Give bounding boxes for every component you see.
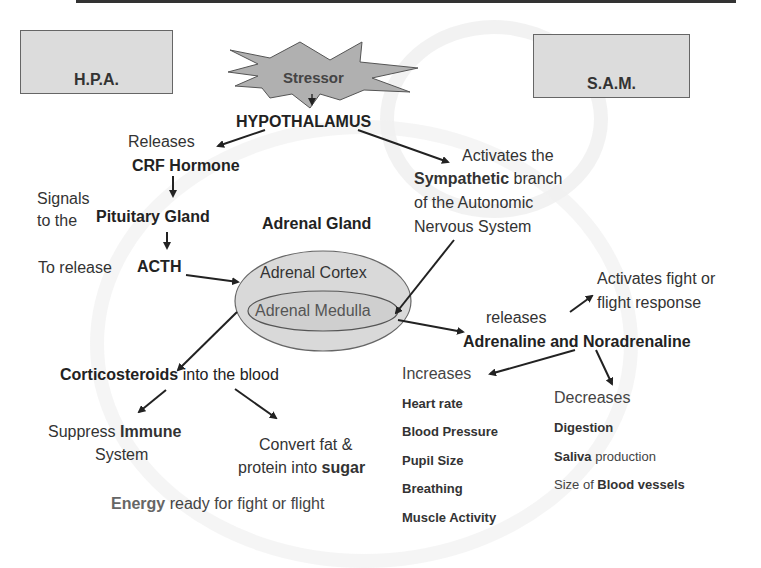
energy-line: Energy ready for fight or flight (111, 495, 324, 513)
system-label: System (95, 446, 148, 464)
activates-the-label: Activates the (462, 147, 554, 165)
production-label: production (592, 449, 656, 464)
decrease-item: Size of Blood vessels (554, 477, 685, 492)
sympathetic-line: Sympathetic branch (414, 170, 563, 188)
suppress-immune-line: Suppress Immune (48, 423, 181, 441)
increase-item: Muscle Activity (402, 510, 496, 525)
convert-fat-label: Convert fat & (259, 436, 352, 454)
branch-label: branch (509, 170, 562, 187)
sympathetic-label: Sympathetic (414, 170, 509, 187)
hypothalamus-label: HYPOTHALAMUS (236, 113, 371, 131)
decreases-label: Decreases (554, 389, 630, 407)
releases-label: Releases (128, 133, 195, 151)
acth-label: ACTH (137, 258, 181, 276)
to-release-label: To release (38, 259, 112, 277)
increase-item: Blood Pressure (402, 424, 498, 439)
size-of-label: Size of (554, 477, 597, 492)
energy-label: Energy (111, 495, 165, 512)
flight-response-label: flight response (597, 294, 701, 312)
adrenaline-label: Adrenaline and Noradrenaline (463, 333, 691, 351)
into-blood-label: into the blood (178, 366, 279, 383)
crf-hormone-label: CRF Hormone (132, 157, 240, 175)
activates-fight-label: Activates fight or (597, 270, 715, 288)
nervous-system-label: Nervous System (414, 218, 531, 236)
energy-rest-label: ready for fight or flight (165, 495, 324, 512)
decrease-item: Saliva production (554, 449, 656, 464)
protein-into-label: protein into (238, 459, 322, 476)
increase-item: Pupil Size (402, 453, 463, 468)
increases-label: Increases (402, 365, 471, 383)
increase-item: Breathing (402, 481, 463, 496)
adrenal-medulla-label: Adrenal Medulla (255, 302, 371, 320)
decrease-item: Digestion (554, 420, 613, 435)
sugar-label: sugar (322, 459, 366, 476)
of-autonomic-label: of the Autonomic (414, 194, 533, 212)
saliva-label: Saliva (554, 449, 592, 464)
corticosteroids-label: Corticosteroids (60, 366, 178, 383)
to-the-label: to the (37, 212, 77, 230)
signals-label: Signals (37, 190, 89, 208)
releases-sam-label: releases (486, 309, 546, 327)
blood-vessels-label: Blood vessels (597, 477, 684, 492)
suppress-label: Suppress (48, 423, 120, 440)
stressor-label: Stressor (283, 69, 344, 86)
adrenal-cortex-label: Adrenal Cortex (260, 264, 367, 282)
immune-label: Immune (120, 423, 181, 440)
protein-sugar-line: protein into sugar (238, 459, 365, 477)
adrenal-gland-label: Adrenal Gland (262, 215, 371, 233)
corticosteroids-line: Corticosteroids into the blood (60, 366, 279, 384)
pituitary-gland-label: Pituitary Gland (96, 208, 210, 226)
increase-item: Heart rate (402, 396, 463, 411)
